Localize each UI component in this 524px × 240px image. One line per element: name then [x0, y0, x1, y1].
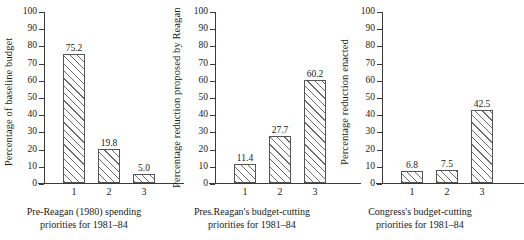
- y-tick-3-7: [377, 132, 382, 133]
- y-tick-3-1: [377, 29, 382, 30]
- y-tick-label-1-7: 30: [15, 125, 37, 138]
- bar-group-1: 75.2 1 19.8 2 5.0 3: [45, 12, 156, 183]
- y-tick-2-9: [210, 167, 215, 168]
- caption-line-3-1: Congress's budget-cutting: [368, 206, 472, 217]
- y-tick-2-8: [210, 150, 215, 151]
- y-tick-2-2: [210, 46, 215, 47]
- y-axis-title-3: Percentage reduction enacted: [338, 16, 352, 188]
- bar-value-label-3-1: 6.8: [406, 159, 418, 171]
- y-tick-label-2-9: 10: [186, 160, 208, 173]
- x-axis-line-1: [38, 183, 184, 184]
- bar-2-3[interactable]: 60.2 3: [304, 80, 326, 183]
- caption-line-2-1: Pres.Reagan's budget-cutting: [194, 206, 310, 217]
- y-tick-2-1: [210, 29, 215, 30]
- y-tick-3-8: [377, 150, 382, 151]
- x-axis-caption-1: Pre-Reagan (1980) spending priorities fo…: [0, 206, 172, 231]
- plot-area-2: 100 90 80 70 60 50 40 30 20 10 0 11.4 1 …: [215, 12, 329, 184]
- y-tick-3-2: [377, 46, 382, 47]
- x-tick-label-3-2: 2: [445, 185, 450, 198]
- bar-2-1[interactable]: 11.4 1: [234, 164, 256, 183]
- y-tick-2-4: [210, 81, 215, 82]
- bar-value-label-1-2: 19.8: [101, 137, 118, 149]
- y-tick-label-3-3: 70: [353, 57, 375, 70]
- y-tick-label-2-2: 80: [186, 39, 208, 52]
- y-tick-label-1-6: 40: [15, 108, 37, 121]
- x-tick-label-1-1: 1: [72, 185, 77, 198]
- x-tick-label-2-3: 3: [313, 185, 318, 198]
- y-tick-1-10: [39, 184, 44, 185]
- y-tick-label-2-4: 60: [186, 74, 208, 87]
- y-tick-label-2-1: 90: [186, 22, 208, 35]
- y-tick-label-3-7: 30: [353, 125, 375, 138]
- y-tick-2-3: [210, 64, 215, 65]
- y-tick-label-1-5: 50: [15, 91, 37, 104]
- x-tick-label-2-1: 1: [243, 185, 248, 198]
- y-tick-1-6: [39, 115, 44, 116]
- bar-value-label-2-2: 27.7: [272, 124, 289, 136]
- y-tick-label-3-10: 0: [353, 177, 375, 190]
- bar-group-2: 11.4 1 27.7 2 60.2 3: [216, 12, 329, 183]
- x-axis-caption-2: Pres.Reagan's budget-cutting priorities …: [164, 206, 340, 231]
- y-tick-label-2-5: 50: [186, 91, 208, 104]
- y-tick-label-1-10: 0: [15, 177, 37, 190]
- bar-value-label-2-3: 60.2: [307, 68, 324, 80]
- y-tick-3-6: [377, 115, 382, 116]
- y-axis-title-2: Percentage reduction proposed by Reagan: [170, 16, 184, 188]
- y-tick-2-5: [210, 98, 215, 99]
- y-tick-label-2-3: 70: [186, 57, 208, 70]
- y-tick-label-3-0: 100: [353, 5, 375, 18]
- bar-1-1[interactable]: 75.2 1: [63, 54, 85, 183]
- bar-value-label-2-1: 11.4: [237, 152, 253, 164]
- y-tick-label-2-7: 30: [186, 125, 208, 138]
- bar-value-label-3-3: 42.5: [474, 98, 491, 110]
- y-tick-3-4: [377, 81, 382, 82]
- y-tick-label-1-1: 90: [15, 22, 37, 35]
- y-tick-label-2-0: 100: [186, 5, 208, 18]
- bar-3-2[interactable]: 7.5 2: [436, 170, 458, 183]
- plot-area-3: 100 90 80 70 60 50 40 30 20 10 0 6.8 1 7…: [382, 12, 494, 184]
- bar-2-2[interactable]: 27.7 2: [269, 136, 291, 183]
- bar-1-2[interactable]: 19.8 2: [98, 149, 120, 183]
- y-tick-label-1-8: 20: [15, 143, 37, 156]
- caption-line-2-2: priorities for 1981–84: [164, 219, 340, 232]
- y-tick-label-3-9: 10: [353, 160, 375, 173]
- x-tick-label-3-3: 3: [480, 185, 485, 198]
- bar-3-1[interactable]: 6.8 1: [401, 171, 423, 183]
- y-tick-label-2-8: 20: [186, 143, 208, 156]
- x-tick-label-2-2: 2: [278, 185, 283, 198]
- y-tick-label-3-2: 80: [353, 39, 375, 52]
- bar-group-3: 6.8 1 7.5 2 42.5 3: [383, 12, 494, 183]
- bar-value-label-1-3: 5.0: [138, 162, 150, 174]
- x-axis-caption-3: Congress's budget-cutting priorities for…: [332, 206, 508, 231]
- x-tick-label-3-1: 1: [410, 185, 415, 198]
- y-tick-label-3-6: 40: [353, 108, 375, 121]
- y-tick-1-8: [39, 150, 44, 151]
- y-tick-1-5: [39, 98, 44, 99]
- bar-value-label-1-1: 75.2: [66, 42, 83, 54]
- bar-1-3[interactable]: 5.0 3: [133, 174, 155, 183]
- bar-value-label-3-2: 7.5: [441, 158, 453, 170]
- bar-3-3[interactable]: 42.5 3: [471, 110, 493, 183]
- y-tick-3-10: [377, 184, 382, 185]
- y-tick-1-9: [39, 167, 44, 168]
- plot-area-1: 100 90 80 70 60 50 40 30 20 10 0 75.2 1 …: [44, 12, 156, 184]
- y-tick-1-4: [39, 81, 44, 82]
- y-tick-label-1-3: 70: [15, 57, 37, 70]
- y-tick-1-1: [39, 29, 44, 30]
- y-tick-3-9: [377, 167, 382, 168]
- y-tick-2-10: [210, 184, 215, 185]
- y-tick-label-1-0: 100: [15, 5, 37, 18]
- y-tick-3-3: [377, 64, 382, 65]
- y-tick-label-3-4: 60: [353, 74, 375, 87]
- y-tick-label-3-1: 90: [353, 22, 375, 35]
- y-tick-label-2-6: 40: [186, 108, 208, 121]
- chart-panel-2: Percentage reduction proposed by Reagan …: [168, 0, 336, 240]
- y-tick-3-5: [377, 98, 382, 99]
- y-tick-1-7: [39, 132, 44, 133]
- caption-line-1-1: Pre-Reagan (1980) spending: [27, 206, 141, 217]
- y-tick-label-1-4: 60: [15, 74, 37, 87]
- x-tick-label-1-2: 2: [107, 185, 112, 198]
- caption-line-3-2: priorities for 1981–84: [332, 219, 508, 232]
- y-tick-label-1-9: 10: [15, 160, 37, 173]
